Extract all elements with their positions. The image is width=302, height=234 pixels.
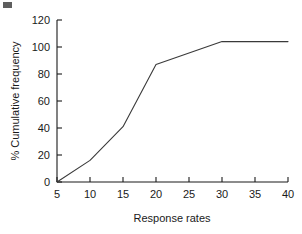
x-tick-label: 25 (183, 188, 195, 200)
x-tick-label: 30 (216, 188, 228, 200)
x-tick-label: 40 (282, 188, 294, 200)
y-tick-label: 60 (38, 95, 50, 107)
y-axis-title: % Cumulative frequency (9, 41, 21, 161)
y-tick-label: 120 (32, 14, 50, 26)
chart-figure: 020406080100120 510152025303540 Response… (0, 0, 302, 234)
x-tick-label: 20 (150, 188, 162, 200)
x-axis-title: Response rates (133, 212, 211, 224)
x-tick-label: 5 (54, 188, 60, 200)
y-tick-label: 40 (38, 122, 50, 134)
x-tick-label: 10 (84, 188, 96, 200)
x-tick-label: 35 (249, 188, 261, 200)
scan-artifact (3, 2, 12, 8)
x-tick-label: 15 (117, 188, 129, 200)
y-tick-label: 80 (38, 68, 50, 80)
y-tick-label: 100 (32, 41, 50, 53)
y-tick-label: 20 (38, 149, 50, 161)
y-tick-label: 0 (44, 176, 50, 188)
cumulative-frequency-line-chart: 020406080100120 510152025303540 Response… (0, 0, 302, 234)
